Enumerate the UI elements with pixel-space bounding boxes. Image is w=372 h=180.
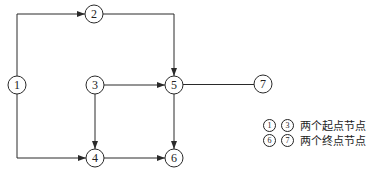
node-7: 7 [254, 75, 272, 93]
legend-mark: 6 [263, 134, 276, 147]
node-4: 4 [86, 149, 104, 167]
node-label: 7 [260, 77, 266, 91]
node-label: 6 [171, 151, 177, 165]
node-3: 3 [86, 76, 104, 94]
legend-mark: 3 [281, 119, 294, 132]
legend-text: 两个终点节点 [300, 135, 366, 148]
node-label: 3 [92, 78, 98, 92]
edge-1-2 [17, 14, 85, 76]
edge-2-5 [103, 14, 174, 76]
legend-mark: 7 [281, 134, 294, 147]
legend-end-nodes: 67两个终点节点 [263, 132, 366, 148]
node-1: 1 [8, 76, 26, 94]
legend-start-nodes: 13两个起点节点 [263, 117, 366, 133]
node-label: 1 [14, 78, 20, 92]
node-6: 6 [165, 149, 183, 167]
edge-1-4 [17, 94, 86, 158]
legend-mark: 1 [263, 119, 276, 132]
node-label: 5 [171, 78, 177, 92]
network-diagram: 1 2 3 4 5 6 7 [0, 0, 372, 180]
node-label: 4 [92, 151, 98, 165]
node-label: 2 [91, 7, 97, 21]
node-5: 5 [165, 76, 183, 94]
node-2: 2 [85, 5, 103, 23]
